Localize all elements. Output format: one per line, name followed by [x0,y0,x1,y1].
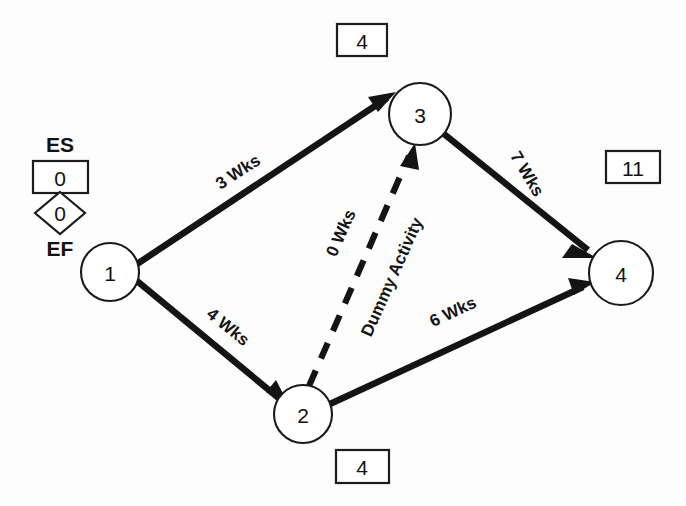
node-4-label: 4 [615,263,627,286]
edge-1-to-2-line [137,281,281,400]
value-box-node-3: 4 [337,24,387,56]
node-3-label: 3 [414,104,426,127]
value-box-node-2: 4 [336,450,389,483]
network-diagram-svg: 3 Wks 4 Wks 0 Wks Dummy Activity 7 Wks 6… [0,0,686,506]
node-1-label: 1 [104,262,116,285]
edge-2-to-3-arrowhead [400,143,419,170]
value-box-node-4-text: 11 [622,157,644,180]
edge-1-to-3-line [137,98,387,264]
es-value-text: 0 [54,167,66,190]
value-box-node-2-text: 4 [356,456,368,479]
edge-1-to-3 [137,92,396,264]
edge-label-dummy-activity: Dummy Activity [357,214,427,339]
node-2[interactable]: 2 [274,385,332,443]
es-ef-legend: ES 0 0 EF [33,133,88,260]
value-box-node-4: 11 [606,151,660,183]
ef-legend-label: EF [47,237,74,260]
edge-label-2-to-3-duration: 0 Wks [322,207,359,260]
es-legend-label: ES [46,133,74,156]
value-box-node-3-text: 4 [356,30,368,53]
node-1[interactable]: 1 [81,243,139,301]
ef-value-text: 0 [54,202,66,225]
node-2-label: 2 [297,404,309,427]
edge-label-2-to-4: 6 Wks [427,293,480,331]
node-3[interactable]: 3 [389,83,451,145]
edge-1-to-2 [137,281,290,407]
network-diagram-canvas: 3 Wks 4 Wks 0 Wks Dummy Activity 7 Wks 6… [0,0,686,506]
node-4[interactable]: 4 [589,241,653,305]
